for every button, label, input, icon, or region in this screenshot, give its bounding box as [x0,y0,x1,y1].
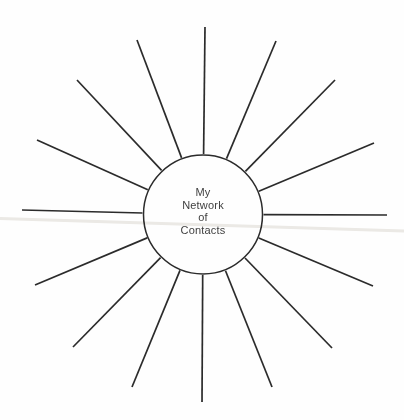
spoke-line [35,238,147,285]
spoke-line [204,27,205,154]
spoke-line [259,143,374,191]
spoke-line [202,275,203,402]
network-spoke-diagram [0,0,404,420]
spoke-line [259,238,373,286]
spoke-line [245,80,335,171]
center-circle [144,155,263,274]
diagram-canvas: My Network of Contacts [0,0,404,420]
spoke-line [227,41,277,159]
spoke-line [22,210,143,213]
spoke-line [132,270,180,387]
spoke-line [226,271,273,387]
spoke-line [77,80,162,170]
spoke-line [245,258,332,348]
spoke-line [73,258,161,347]
spoke-line [137,40,182,158]
spoke-line [37,140,148,190]
